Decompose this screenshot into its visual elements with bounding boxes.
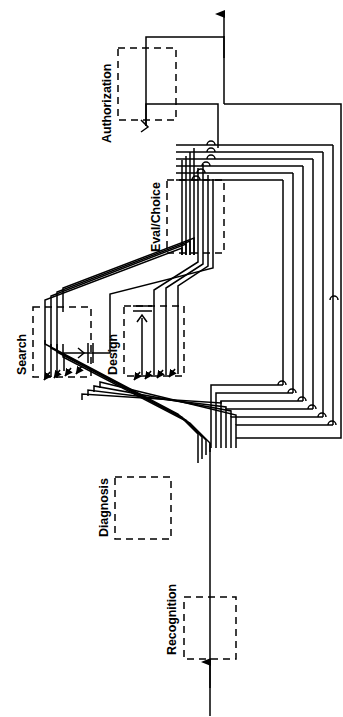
stage-box-diagnosis[interactable] [115, 477, 171, 539]
arrow-into-design-3 [157, 370, 163, 378]
arrow-into-search-4 [76, 366, 82, 374]
return-rail-b [231, 417, 323, 448]
return-rail-c [226, 409, 313, 448]
feedback-header [176, 145, 333, 425]
wire-hops [192, 141, 338, 425]
design-legs [154, 296, 178, 375]
arrow-into-auth [141, 120, 148, 132]
auth-to-output [146, 37, 224, 48]
arrow-into-design-2 [145, 371, 151, 379]
label-recognition: Recognition [165, 584, 179, 655]
main-spine [210, 14, 224, 716]
label-evalchoice: Eval/Choice [149, 182, 163, 252]
arrow-into-search-3 [65, 368, 71, 376]
label-search: Search [15, 334, 29, 375]
forward-fan-upper [45, 238, 213, 312]
stage-box-authorization[interactable] [118, 48, 176, 120]
design-self-loop [133, 306, 152, 375]
flow-diagram: Recognition Diagnosis Search Design Eval… [0, 0, 343, 717]
return-rail-a [236, 425, 333, 448]
hop-13 [330, 296, 338, 300]
edge-search-to-eval-1 [45, 248, 182, 310]
search-legs [45, 310, 57, 378]
edge-design-to-eval-1 [154, 255, 198, 305]
edge-eval-to-auth [146, 104, 218, 148]
eval-to-authorization [141, 37, 224, 148]
evalchoice-legs [182, 148, 213, 255]
search-entry-arrows [44, 366, 82, 380]
arrow-into-design-4 [169, 369, 175, 377]
label-design: Design [106, 334, 120, 375]
label-authorization: Authorization [100, 64, 114, 143]
flow-diagram-canvas: Recognition Diagnosis Search Design Eval… [0, 0, 343, 717]
stage-box-evalchoice[interactable] [167, 180, 224, 253]
edge-search-to-eval-3 [57, 241, 190, 311]
label-diagnosis: Diagnosis [97, 478, 111, 537]
